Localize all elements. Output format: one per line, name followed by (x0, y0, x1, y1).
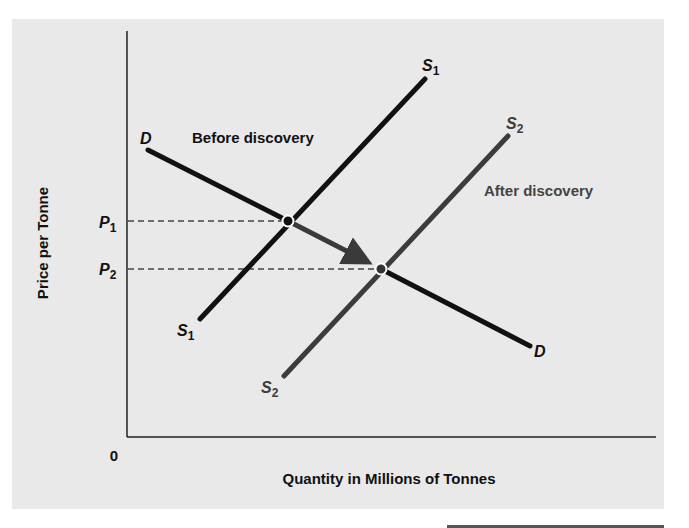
s2-label-bottom: S2 (261, 379, 279, 400)
before-discovery-annotation: Before discovery (192, 129, 314, 146)
demand-curve-upper (148, 150, 288, 221)
s1-label-bottom: S1 (177, 322, 195, 343)
supply-curve-s2 (284, 136, 508, 376)
p2-label: P2 (99, 261, 117, 282)
x-axis-label: Quantity in Millions of Tonnes (282, 470, 495, 487)
origin-label: 0 (110, 447, 118, 464)
demand-curve-lower (381, 269, 530, 346)
demand-label-top: D (140, 130, 152, 147)
demand-label-bottom: D (534, 343, 546, 360)
s1-label-top: S1 (422, 57, 440, 78)
equilibrium-point-1 (283, 216, 294, 227)
p1-label: P1 (99, 214, 117, 235)
shift-arrow (292, 223, 366, 261)
supply-demand-chart: Price per Tonne Quantity in Millions of … (0, 0, 689, 528)
after-discovery-annotation: After discovery (484, 182, 594, 199)
y-axis-label: Price per Tonne (34, 187, 51, 299)
supply-curve-s1 (200, 79, 425, 319)
equilibrium-point-2 (376, 264, 387, 275)
s2-label-top: S2 (506, 115, 524, 136)
